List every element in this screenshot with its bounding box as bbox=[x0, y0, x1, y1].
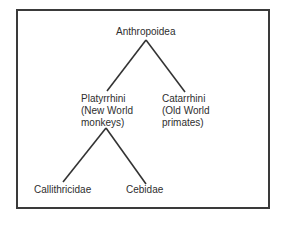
node-anthropoidea: Anthropoidea bbox=[116, 26, 176, 38]
edge-anthropoidea-catarrhini bbox=[146, 40, 185, 92]
edge-anthropoidea-platyrrhini bbox=[107, 40, 146, 91]
edge-platyrrhini-cebidae bbox=[106, 128, 146, 184]
node-platyrrhini: Platyrrhini (New World monkeys) bbox=[81, 93, 133, 129]
edge-platyrrhini-callithricidae bbox=[63, 128, 106, 182]
node-catarrhini: Catarrhini (Old World primates) bbox=[162, 93, 210, 129]
node-callithricidae: Callithricidae bbox=[34, 184, 91, 196]
node-cebidae: Cebidae bbox=[126, 184, 163, 196]
